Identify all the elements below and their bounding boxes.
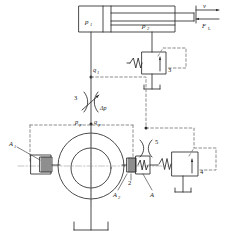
label-load-force: F [201,22,207,29]
label-relief-3: 3 [168,66,171,73]
motion-arrows [196,6,219,23]
label-p2-sub: 2 [147,26,150,31]
label-A1-sub: 1 [14,144,16,149]
diagram-canvas: p 1 p 2 v F L q 1 3 Δp p p q p A 1 5 3 4… [0,0,228,238]
label-valve-4: 4 [200,168,204,175]
main-supply-line [91,32,152,230]
hydraulic-schematic: p 1 p 2 v F L q 1 3 Δp p p q p A 1 5 3 4… [0,0,228,238]
label-q1-sub: 1 [97,70,99,75]
label-p1-sub: 1 [90,22,92,27]
label-velocity: v [203,2,206,9]
label-orifice-5: 5 [155,138,158,145]
label-load-force-sub: L [208,26,211,31]
relief-valve-pilot-line [158,48,186,68]
label-orifice-3: 3 [74,94,77,101]
hydraulic-cylinder [79,6,194,32]
label-leader-lines [118,174,152,190]
label-pp: p [74,118,79,125]
label-delta-p: Δp [99,105,107,111]
pressure-compensator-valve-4 [159,152,198,192]
label-piston-2: 2 [128,179,131,186]
valve4-pilot-line [189,148,216,170]
fixed-orifice-5 [140,140,152,157]
label-A2: A [112,191,117,198]
label-A: A [149,191,154,198]
node-pilot-branch [145,127,148,130]
label-p1: p [84,18,89,26]
pressure-relief-valve-3 [127,52,166,89]
label-A1: A [8,140,13,147]
load-sense-pilot-line [91,77,194,148]
large-control-piston-A1 [17,147,60,174]
label-qp: q [94,118,98,125]
label-A2-sub: 2 [118,195,121,200]
label-qp-sub: p [97,122,101,127]
variable-orifice-3 [82,92,99,112]
label-p2: p [141,22,146,30]
label-pp-sub: p [79,122,83,127]
small-control-piston-2 [122,156,150,174]
